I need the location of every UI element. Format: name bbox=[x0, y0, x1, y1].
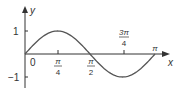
x-tick-label-3pi4-num: 3π bbox=[119, 28, 129, 37]
x-tick-label-pi4-num: π bbox=[55, 57, 61, 66]
y-axis-arrow-icon bbox=[22, 6, 28, 13]
x-tick-label-pi4-den: 4 bbox=[56, 68, 61, 77]
x-tick-label-3pi4-den: 4 bbox=[122, 39, 127, 48]
x-axis-label: x bbox=[167, 57, 174, 68]
x-tick-label-pi: π bbox=[152, 44, 158, 53]
origin-label: 0 bbox=[30, 57, 36, 68]
y-axis-label: y bbox=[29, 5, 36, 16]
x-tick-label-pi2-den: 2 bbox=[89, 68, 94, 77]
sine-chart: y x 1 −1 0 π 4 π 2 3π 4 π bbox=[0, 0, 185, 96]
y-tick-label-minus1: −1 bbox=[8, 72, 20, 83]
y-tick-label-1: 1 bbox=[13, 26, 19, 37]
x-tick-label-pi2-num: π bbox=[88, 57, 94, 66]
